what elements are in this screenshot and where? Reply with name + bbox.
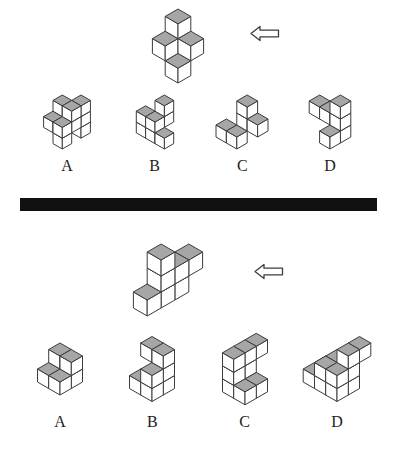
worksheet-page: A B C D A bbox=[0, 0, 397, 460]
puzzle-1-target-row bbox=[0, 0, 397, 89]
puzzle-2-option-c[interactable]: C bbox=[199, 329, 291, 430]
puzzle-1-option-c[interactable]: C bbox=[199, 91, 285, 174]
option-label: A bbox=[54, 414, 66, 430]
option-figure bbox=[291, 329, 383, 409]
puzzle-1: A B C D bbox=[0, 0, 397, 174]
puzzle-1-target-figure bbox=[118, 5, 238, 87]
option-label: D bbox=[324, 158, 336, 174]
option-label: C bbox=[237, 158, 248, 174]
option-figure bbox=[106, 329, 198, 409]
puzzle-1-option-b[interactable]: B bbox=[112, 91, 198, 174]
option-figure bbox=[24, 91, 110, 153]
puzzle-2-options: A B C D bbox=[0, 327, 397, 430]
puzzle-2: A B C D bbox=[0, 235, 397, 430]
puzzle-2-option-b[interactable]: B bbox=[106, 329, 198, 430]
option-label: C bbox=[239, 414, 250, 430]
option-label: A bbox=[61, 158, 73, 174]
puzzle-1-options: A B C D bbox=[0, 89, 397, 174]
puzzle-2-option-a[interactable]: A bbox=[14, 329, 106, 430]
section-divider bbox=[20, 198, 377, 211]
option-label: D bbox=[331, 414, 343, 430]
option-label: B bbox=[147, 414, 158, 430]
left-arrow-icon bbox=[250, 25, 280, 42]
puzzle-1-option-d[interactable]: D bbox=[287, 91, 373, 174]
puzzle-1-option-a[interactable]: A bbox=[24, 91, 110, 174]
left-arrow-icon bbox=[254, 263, 284, 280]
puzzle-2-option-d[interactable]: D bbox=[291, 329, 383, 430]
option-figure bbox=[14, 329, 106, 409]
option-figure bbox=[199, 91, 285, 153]
puzzle-2-target-row bbox=[0, 235, 389, 327]
option-figure bbox=[112, 91, 198, 153]
puzzle-2-target-figure bbox=[98, 235, 238, 325]
option-figure bbox=[287, 91, 373, 153]
option-label: B bbox=[149, 158, 160, 174]
option-figure bbox=[199, 329, 291, 409]
